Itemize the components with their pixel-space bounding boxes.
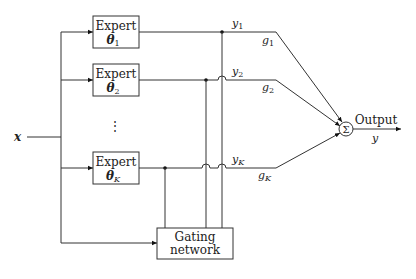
yk-label: yK <box>231 153 245 167</box>
expert-1-title: Expert <box>96 19 137 33</box>
input-label: x <box>13 130 22 144</box>
expert-1-box: Expert θ1 <box>93 16 139 48</box>
gating-line-2: network <box>170 243 221 257</box>
sum-symbol: Σ <box>342 124 349 135</box>
sum-node: Σ <box>339 122 353 136</box>
expert-k-title: Expert <box>96 155 137 169</box>
gating-network-box: Gating network <box>157 228 233 259</box>
y2-label: y2 <box>231 65 243 79</box>
ellipsis: ⋮ <box>109 119 121 133</box>
g1-label: g1 <box>262 34 274 48</box>
gating-line-1: Gating <box>175 230 216 244</box>
y1-label: y1 <box>231 17 243 31</box>
output-label: Output <box>355 113 398 127</box>
g2-label: g2 <box>262 81 274 95</box>
gk-label: gK <box>258 169 272 183</box>
mixture-of-experts-diagram: x Expert θ1 Expert θ2 ⋮ Expert θK <box>0 0 416 279</box>
output-var: y <box>371 132 379 145</box>
expert-2-title: Expert <box>96 67 137 81</box>
expert-2-box: Expert θ2 <box>93 64 139 96</box>
expert-2-output-wire <box>139 76 340 126</box>
expert-k-box: Expert θK <box>93 152 139 184</box>
